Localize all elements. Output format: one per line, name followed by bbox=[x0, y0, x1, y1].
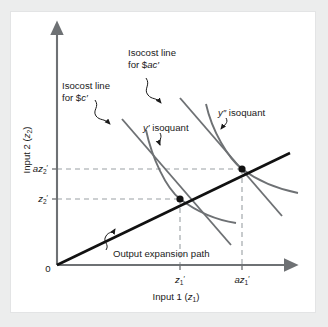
annotation-labels: Isocost line for $c′ Isocost line for $a… bbox=[62, 47, 265, 259]
y-tick-label-az2: az2′ bbox=[33, 163, 49, 176]
isocost-low-label-line1: Isocost line bbox=[62, 80, 110, 91]
x-tick-label-z1: z1′ bbox=[174, 274, 185, 287]
isocost-high-label-line1: Isocost line bbox=[128, 47, 176, 58]
diagram-canvas: Isocost line for $c′ Isocost line for $a… bbox=[0, 0, 328, 327]
isoquant-low-text: isoquant bbox=[150, 122, 189, 133]
tangency-point-low bbox=[176, 195, 183, 202]
leader-isocost-low bbox=[95, 100, 110, 124]
axis-titles: Input 1 (z1) Input 2 (z2) bbox=[21, 127, 199, 304]
isoquant-high-label: y″ isoquant bbox=[217, 107, 265, 118]
tangency-point-high bbox=[238, 165, 245, 172]
axes bbox=[52, 33, 286, 270]
x-axis-title: Input 1 (z1) bbox=[153, 291, 200, 303]
leader-isoquant-high bbox=[221, 118, 227, 129]
x-tick-label-az1: az1′ bbox=[234, 274, 250, 287]
origin-label: 0 bbox=[45, 263, 50, 274]
y-axis-title: Input 2 (z2) bbox=[21, 127, 33, 174]
leader-isoquant-low bbox=[160, 133, 161, 145]
figure-root: Isocost line for $c′ Isocost line for $a… bbox=[0, 0, 328, 327]
tangency-points bbox=[176, 165, 245, 202]
isoquant-low-label: y′ isoquant bbox=[142, 122, 189, 133]
y-tick-label-z2: z2′ bbox=[37, 193, 48, 206]
isocost-low-prefix: for $ bbox=[62, 92, 82, 103]
isocost-high-value: ac′ bbox=[147, 59, 160, 70]
output-expansion-path-label: Output expansion path bbox=[113, 248, 210, 259]
isoquant-high-text: isoquant bbox=[226, 107, 265, 118]
isocost-high-prefix: for $ bbox=[128, 59, 148, 70]
isocost-low-value: c′ bbox=[81, 92, 89, 103]
isocost-high-label-line2: for $ac′ bbox=[128, 59, 160, 70]
isocost-low-label-line2: for $c′ bbox=[62, 92, 89, 103]
leader-isocost-high bbox=[146, 78, 161, 103]
